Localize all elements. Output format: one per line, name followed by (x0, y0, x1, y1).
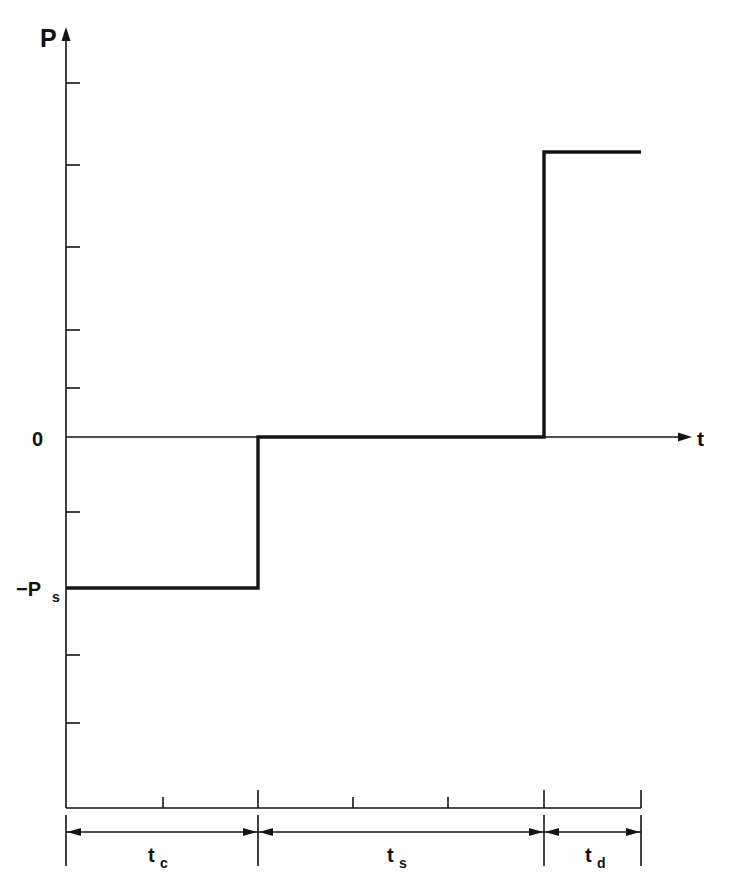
y-value-labels: 0 −P s (16, 428, 60, 605)
interval-ts-arrow-left (259, 828, 273, 836)
y-tick-label-zero: 0 (32, 428, 43, 450)
interval-td: t d (544, 828, 641, 871)
interval-tc-label-base: t (148, 844, 155, 866)
y-tick-label-neg-ps: −P s (16, 578, 60, 605)
y-axis-ticks (66, 83, 80, 723)
interval-td-arrow-left (545, 828, 559, 836)
x-axis-arrowhead (678, 433, 692, 442)
interval-ts-arrow-right (529, 828, 543, 836)
interval-td-arrow-right (626, 828, 640, 836)
y-tick-label-neg-ps-base: −P (16, 578, 41, 600)
y-tick-label-neg-ps-subscript: s (52, 589, 60, 605)
x-axis-label: t (697, 427, 704, 450)
interval-td-label-base: t (585, 844, 592, 866)
interval-tc-label-subscript: c (160, 855, 168, 871)
timing-ruler (66, 790, 641, 808)
interval-tc-arrow-right (243, 828, 257, 836)
interval-tc-arrow-left (67, 828, 81, 836)
figure-canvas: P t 0 −P s (0, 0, 729, 879)
pressure-time-figure: P t 0 −P s (0, 0, 729, 879)
pressure-step-curve (66, 152, 641, 588)
y-axis-label: P (40, 24, 57, 52)
interval-dimensions: t c t s t d (66, 815, 641, 871)
interval-ts: t s (258, 828, 544, 871)
waveform-trace (66, 152, 641, 588)
ruler-minor-ticks (163, 797, 448, 808)
y-axis-group: P (40, 24, 80, 790)
y-axis-arrowhead (62, 27, 71, 41)
interval-ts-label-base: t (387, 844, 394, 866)
interval-tc: t c (66, 828, 258, 871)
interval-td-label-subscript: d (597, 855, 606, 871)
interval-ts-label-subscript: s (399, 855, 407, 871)
